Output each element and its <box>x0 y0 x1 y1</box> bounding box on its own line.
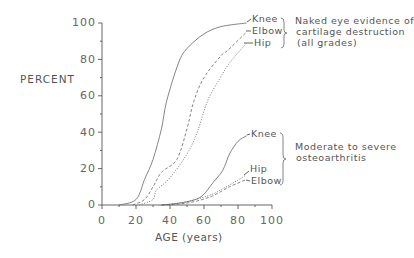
lower-knee-label: Knee <box>251 128 277 139</box>
upper-hip-label: Hip <box>254 37 271 48</box>
x-tick-40: 40 <box>155 214 185 227</box>
lower-hip-label: Hip <box>250 163 267 174</box>
lower-hip-curve <box>162 176 245 205</box>
upper-elbow-label: Elbow <box>252 25 283 36</box>
upper-elbow-curve <box>133 32 247 205</box>
label-leader-line <box>247 134 250 135</box>
lower-elbow-label: Elbow <box>251 175 282 186</box>
y-axis-label: PERCENT <box>20 74 75 85</box>
y-tick-20: 20 <box>66 162 96 175</box>
upper-group-desc-line1: Naked eye evidence of <box>295 15 414 26</box>
y-tick-40: 40 <box>66 126 96 139</box>
label-leader-line <box>244 171 249 175</box>
x-tick-100: 100 <box>257 214 287 227</box>
curves <box>119 23 247 205</box>
y-tick-80: 80 <box>66 53 96 66</box>
y-tick-60: 60 <box>66 89 96 102</box>
y-tick-100: 100 <box>66 16 96 29</box>
y-tick-0: 0 <box>66 198 96 211</box>
lower-knee-curve <box>162 136 247 205</box>
x-axis-label: AGE (years) <box>155 232 223 243</box>
label-leader-line <box>246 180 250 181</box>
x-tick-0: 0 <box>87 214 117 227</box>
lower-group-desc-line2: osteoarthritis <box>296 152 366 163</box>
upper-group-desc-line2: cartilage destruction <box>296 26 405 37</box>
lower-group-desc-line1: Moderate to severe <box>295 141 397 152</box>
braces <box>280 18 287 185</box>
x-tick-60: 60 <box>189 214 219 227</box>
upper-group-desc-line3: (all grades) <box>297 37 357 48</box>
x-tick-80: 80 <box>223 214 253 227</box>
label-leader-line <box>247 19 251 22</box>
upper-knee-curve <box>119 23 247 205</box>
axes <box>98 19 272 209</box>
upper-knee-label: Knee <box>252 13 278 24</box>
lower-elbow-curve <box>162 180 247 206</box>
x-tick-20: 20 <box>121 214 151 227</box>
upper-hip-curve <box>139 43 246 205</box>
